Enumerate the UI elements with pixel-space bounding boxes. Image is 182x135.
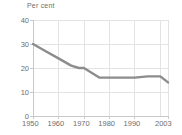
data-series-line <box>33 44 168 82</box>
chart-container: Per cent 40 30 20 10 0 1950 1960 1970 19… <box>0 0 182 135</box>
series-layer <box>0 0 182 135</box>
